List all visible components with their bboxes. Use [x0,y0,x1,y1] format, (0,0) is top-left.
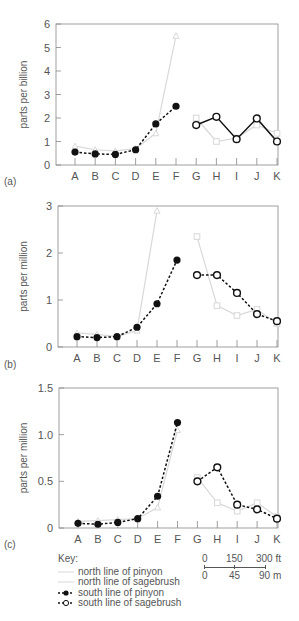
y-tick-label: 1 [46,294,52,306]
x-tick-label: B [93,352,100,364]
square-marker [234,313,240,319]
x-tick-label: A [71,170,79,182]
open-circle-marker [194,478,201,485]
open-circle-marker [193,122,200,129]
filled-circle-marker [154,493,161,500]
x-tick-label: D [132,170,140,182]
triangle-marker [155,504,161,510]
y-tick-label: 5 [44,42,50,54]
chart-figure: 0123456ABCDEFGHIJKparts per billion(a)01… [0,0,299,621]
scale-label-top-0: 0 [202,553,208,564]
scale-bar: 0 150 300 ft 0 45 90 m [200,553,290,583]
x-tick-label: H [213,352,221,364]
open-circle-marker [253,115,260,122]
series-north-line-of-pinyon [74,208,160,339]
x-tick-label: K [273,533,281,545]
scale-tick [234,565,235,569]
chart-panel-b: 0123ABCDEFGHIJKparts per million(b) [4,200,281,370]
square-marker [234,508,240,514]
y-tick-label: 6 [44,18,50,30]
light-line-icon [58,578,76,586]
filled-circle-marker [112,151,119,158]
square-marker [215,500,221,506]
series-north-line-of-pinyon [72,33,179,154]
square-marker [254,500,260,506]
scale-label-top-150: 150 [226,553,243,564]
series-south-line-of-pinyon [73,256,180,341]
y-tick-label: 3 [46,200,52,212]
y-tick-label: 1.5 [38,382,53,394]
open-circle-marker [233,136,240,143]
filled-circle-marker [73,333,80,340]
filled-circle-marker [134,515,141,522]
series-south-line-of-pinyon [74,419,181,528]
chart-panel-c: 00.51.01.5ABCDEFGHIJKparts per million(c… [4,382,281,550]
triangle-marker [72,143,78,149]
filled-circle-marker [133,324,140,331]
x-tick-label: F [173,170,180,182]
filled-circle-marker [94,521,101,528]
legend-item-south-sagebrush: south line of sagebrush [58,598,181,609]
filled-circle-marker [92,150,99,157]
plot-frame [58,206,278,347]
x-tick-label: B [94,533,101,545]
open-circle-marker [214,272,221,279]
x-tick-label: J [254,352,260,364]
x-tick-label: J [254,170,260,182]
x-tick-label: E [152,170,159,182]
x-tick-label: B [92,170,99,182]
square-marker [193,115,199,121]
x-tick-label: A [73,352,81,364]
filled-circle-marker [173,256,180,263]
open-circle-dashed-line-icon [58,599,76,607]
filled-circle-marker [174,419,181,426]
x-tick-label: I [235,170,238,182]
scale-label-top-300ft: 300 ft [256,553,281,564]
x-tick-label: C [111,170,119,182]
legend-title: Key: [58,554,181,565]
legend-label: south line of sagebrush [78,598,181,609]
open-circle-marker [274,318,281,325]
legend: Key: north line of pinyon north line of … [58,554,181,609]
filled-circle-marker [93,334,100,341]
x-tick-label: D [133,352,141,364]
y-tick-label: 2 [44,112,50,124]
filled-circle-marker [132,146,139,153]
scale-label-bottom-45: 45 [229,570,240,581]
x-tick-label: C [113,352,121,364]
scale-tick [265,565,266,569]
scale-label-bottom-90m: 90 m [259,570,281,581]
y-tick-label: 3 [44,89,50,101]
y-axis-title: parts per billion [18,61,29,129]
filled-circle-marker [74,520,81,527]
panel-label: (c) [4,539,16,550]
x-tick-label: A [74,533,82,545]
open-circle-marker [194,272,201,279]
filled-circle-marker [172,103,179,110]
triangle-marker [173,33,179,39]
filled-circle-marker [153,300,160,307]
y-axis-title: parts per million [18,423,29,494]
open-circle-marker [274,515,281,522]
y-tick-label: 1 [44,136,50,148]
series-north-line-of-sagebrush [194,234,280,327]
filled-circle-marker [152,120,159,127]
x-tick-label: H [212,170,220,182]
x-tick-label: K [273,170,281,182]
open-circle-marker [234,290,241,297]
legend-label: north line of sagebrush [78,577,180,588]
x-tick-label: I [236,533,239,545]
filled-circle-marker [113,333,120,340]
plot-frame [59,388,278,528]
x-tick-label: E [153,352,160,364]
light-line-icon [58,568,76,576]
y-tick-label: 0 [46,341,52,353]
x-tick-label: G [193,352,202,364]
y-tick-label: 4 [44,65,50,77]
open-circle-marker [254,311,261,318]
square-marker [254,122,260,128]
plot-frame [56,24,278,165]
x-tick-label: G [193,533,202,545]
x-tick-label: F [174,533,181,545]
panel-label: (b) [4,359,16,370]
